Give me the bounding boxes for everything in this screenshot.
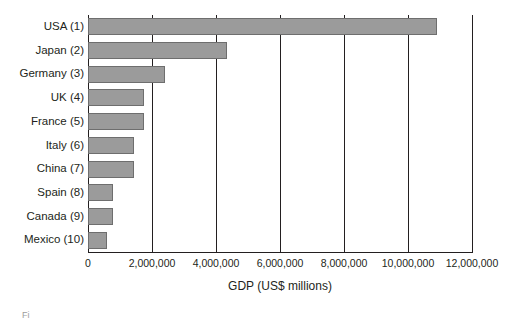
tick-label-4000000: 4,000,000	[193, 256, 240, 270]
bar-series	[88, 15, 472, 252]
bar	[88, 89, 144, 106]
gridline-12000000	[472, 15, 473, 252]
bar-row	[88, 62, 472, 86]
bar	[88, 18, 437, 35]
caption-fragment: Fi	[22, 310, 30, 319]
tick-label-0: 0	[85, 256, 91, 270]
bar	[88, 137, 134, 154]
category-label: Spain (8)	[0, 181, 84, 205]
bar	[88, 161, 134, 178]
category-label: Germany (3)	[0, 62, 84, 86]
tick-label-8000000: 8,000,000	[321, 256, 368, 270]
x-axis-title: GDP (US$ millions)	[88, 279, 472, 293]
plot-area	[88, 15, 472, 252]
bar	[88, 42, 227, 59]
category-label: Italy (6)	[0, 134, 84, 158]
bar	[88, 208, 113, 225]
category-axis-labels: USA (1)Japan (2)Germany (3)UK (4)France …	[0, 15, 84, 252]
category-label: China (7)	[0, 157, 84, 181]
bar	[88, 232, 107, 249]
bar	[88, 66, 165, 83]
bar-row	[88, 157, 472, 181]
category-label: France (5)	[0, 110, 84, 134]
category-label: Canada (9)	[0, 205, 84, 229]
category-label: USA (1)	[0, 15, 84, 39]
bar-row	[88, 134, 472, 158]
category-label: Japan (2)	[0, 39, 84, 63]
bar-row	[88, 110, 472, 134]
tick-label-2000000: 2,000,000	[129, 256, 176, 270]
value-axis-tick-labels: 02,000,0004,000,0006,000,0008,000,00010,…	[0, 256, 522, 272]
x-axis-baseline	[88, 252, 473, 253]
category-label: Mexico (10)	[0, 228, 84, 252]
bar	[88, 184, 113, 201]
bar-row	[88, 228, 472, 252]
gdp-bar-chart: USA (1)Japan (2)Germany (3)UK (4)France …	[0, 0, 522, 319]
tick-label-6000000: 6,000,000	[257, 256, 304, 270]
bar-row	[88, 15, 472, 39]
bar-row	[88, 181, 472, 205]
bar-row	[88, 86, 472, 110]
tick-label-10000000: 10,000,000	[382, 256, 435, 270]
category-label: UK (4)	[0, 86, 84, 110]
bar	[88, 113, 144, 130]
tick-label-12000000: 12,000,000	[446, 256, 499, 270]
bar-row	[88, 39, 472, 63]
bar-row	[88, 205, 472, 229]
